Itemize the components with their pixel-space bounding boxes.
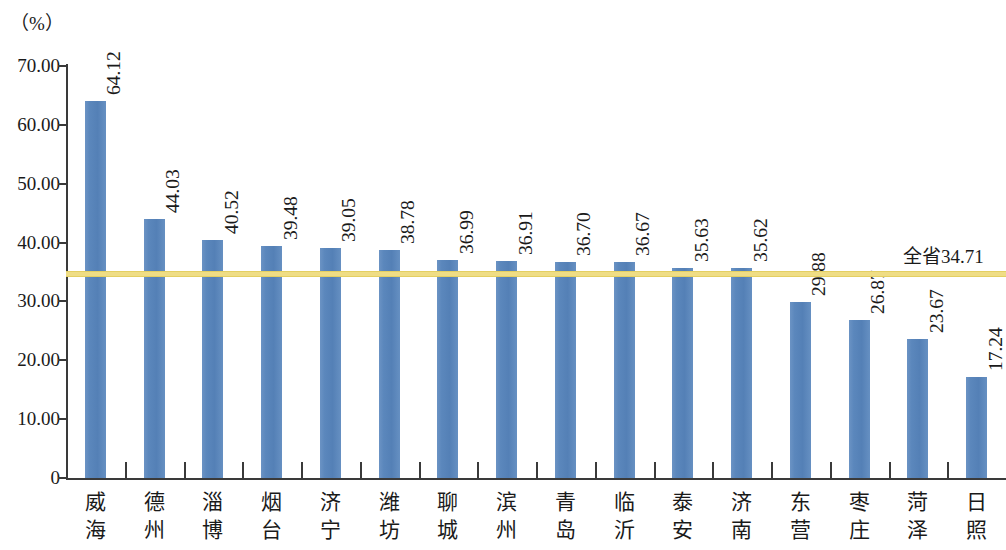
x-category-label: 淄 博 [193,488,233,544]
bar-value-label: 38.78 [397,200,419,244]
bar-value-label: 39.48 [280,196,302,240]
x-tick-mark [419,462,421,479]
x-tick-mark [947,462,949,479]
x-category-label: 菏 泽 [898,488,938,544]
x-category-label: 济 南 [722,488,762,544]
x-category-label: 日 照 [957,488,997,544]
y-tick-mark [58,477,67,479]
bar [85,101,106,478]
x-tick-mark [654,462,656,479]
bar-value-label: 36.99 [456,210,478,254]
bar [907,339,928,478]
province-average-line [66,271,1006,277]
bar [849,320,870,478]
x-tick-mark [889,462,891,479]
x-category-label: 泰 安 [663,488,703,544]
x-category-label: 烟 台 [252,488,292,544]
x-tick-mark [301,462,303,479]
x-category-label: 威 海 [75,488,115,544]
x-category-label: 济 宁 [310,488,350,544]
bar-value-label: 35.63 [691,218,713,262]
bar-value-label: 36.67 [632,212,654,256]
y-tick-mark [58,124,67,126]
bar-value-label: 35.62 [750,218,772,262]
province-average-label: 全省34.71 [903,241,984,268]
x-tick-mark [830,462,832,479]
bar-value-label: 17.24 [985,327,1006,371]
y-tick-label: 10.00 [17,408,60,430]
x-tick-mark [536,462,538,479]
y-tick-label: 60.00 [17,114,60,136]
y-axis-unit-caption: （%） [10,8,64,35]
y-tick-label: 20.00 [17,349,60,371]
bar [790,302,811,478]
y-tick-mark [58,183,67,185]
bar-value-label: 64.12 [103,51,125,95]
x-tick-mark [595,462,597,479]
bar [437,260,458,478]
y-tick-mark [58,359,67,361]
bar-value-label: 23.67 [926,289,948,333]
y-tick-label: 40.00 [17,232,60,254]
x-tick-mark [771,462,773,479]
bar [261,246,282,478]
bar-value-label: 36.91 [515,211,537,255]
x-tick-mark [360,462,362,479]
y-tick-mark [58,418,67,420]
x-tick-mark [242,462,244,479]
y-tick-mark [58,300,67,302]
x-category-label: 枣 庄 [839,488,879,544]
bar [672,268,693,478]
bar [614,262,635,478]
x-tick-mark [712,462,714,479]
x-tick-mark [477,462,479,479]
x-category-label: 临 沂 [604,488,644,544]
y-tick-label: 70.00 [17,55,60,77]
bar-value-label: 40.52 [221,190,243,234]
x-category-label: 德 州 [134,488,174,544]
bar [731,268,752,478]
x-category-label: 滨 州 [487,488,527,544]
y-tick-label: 30.00 [17,290,60,312]
bar [966,377,987,478]
x-category-label: 聊 城 [428,488,468,544]
y-tick-mark [58,242,67,244]
bar-value-label: 44.03 [162,169,184,213]
bar [555,262,576,478]
y-tick-label: 50.00 [17,173,60,195]
bar [379,250,400,478]
bar-value-label: 39.05 [338,198,360,242]
x-category-label: 青 岛 [545,488,585,544]
bar-value-label: 36.70 [573,212,595,256]
x-tick-mark [184,462,186,479]
x-category-label: 潍 坊 [369,488,409,544]
bar [496,261,517,478]
bar [320,248,341,478]
bar [144,219,165,478]
y-tick-mark [58,65,67,67]
x-category-label: 东 营 [780,488,820,544]
x-tick-mark [125,462,127,479]
